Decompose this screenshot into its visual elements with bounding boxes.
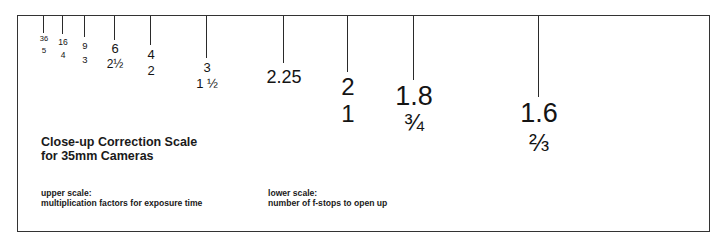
upper-scale-value: 6 (111, 42, 118, 55)
upper-scale-value: 3 (203, 61, 210, 74)
title-line-1: Close-up Correction Scale (41, 135, 197, 149)
lower-scale-description: number of f-stops to open up (268, 198, 387, 208)
upper-scale-heading: upper scale: (41, 188, 202, 198)
upper-scale-note: upper scale: multiplication factors for … (41, 188, 202, 208)
lower-scale-value: 4 (61, 51, 66, 60)
scale-tick (538, 16, 539, 97)
upper-scale-description: multiplication factors for exposure time (41, 198, 202, 208)
upper-scale-value: 36 (40, 35, 48, 43)
upper-scale-value: 2 (341, 75, 354, 99)
scale-tick (150, 16, 151, 45)
upper-scale-value: 1.8 (395, 83, 433, 110)
scale-tick (84, 16, 85, 37)
title-line-2: for 35mm Cameras (41, 149, 197, 163)
lower-scale-value: 2½ (107, 58, 124, 70)
upper-scale-value: 2.25 (266, 68, 301, 86)
scale-title: Close-up Correction Scale for 35mm Camer… (41, 135, 197, 163)
scale-tick (283, 16, 284, 63)
upper-scale-value: 16 (58, 38, 67, 47)
lower-scale-value: 3 (82, 55, 87, 65)
lower-scale-heading: lower scale: (268, 188, 387, 198)
scale-tick (347, 16, 348, 72)
scale-tick (43, 16, 44, 33)
lower-scale-value: ⅔ (529, 131, 549, 155)
upper-scale-value: 9 (82, 41, 87, 51)
upper-scale-value: 4 (147, 48, 154, 61)
lower-scale-value: 5 (42, 47, 46, 55)
lower-scale-value: 1 (341, 102, 354, 126)
scale-tick (413, 16, 414, 80)
scale-tick (62, 16, 63, 34)
lower-scale-note: lower scale: number of f-stops to open u… (268, 188, 387, 208)
lower-scale-value: 1 ½ (196, 77, 218, 90)
lower-scale-value: ¾ (404, 111, 424, 135)
scale-tick (206, 16, 207, 58)
scale-tick (114, 16, 115, 40)
lower-scale-value: 2 (147, 64, 154, 77)
upper-scale-value: 1.6 (520, 100, 558, 127)
